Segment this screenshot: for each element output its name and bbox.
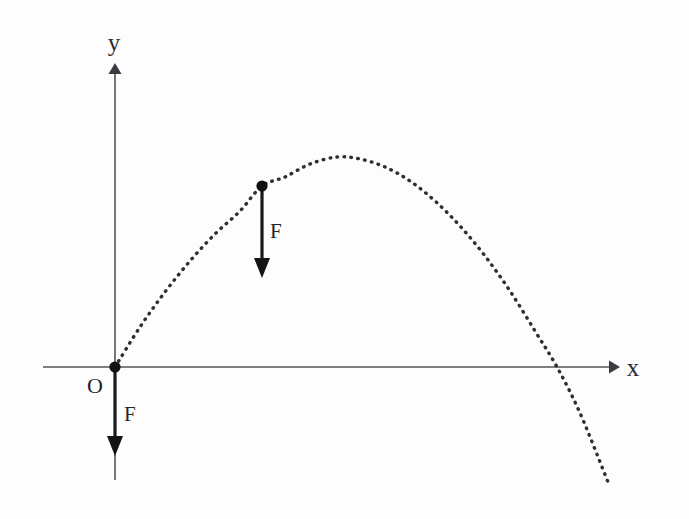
x-axis — [43, 361, 620, 374]
origin-label: O — [87, 373, 103, 398]
projectile-diagram: F F x y O — [0, 0, 689, 519]
trajectory-curve — [115, 157, 608, 482]
force-at-trajectory-point: F — [254, 190, 282, 278]
force-at-origin: F — [107, 371, 136, 456]
arrow-right-icon — [609, 361, 620, 374]
force-label-lower: F — [124, 402, 136, 426]
parabolic-trajectory — [115, 157, 608, 482]
arrow-down-icon — [254, 258, 270, 278]
launch-point-marker — [109, 361, 120, 372]
figure-canvas: F F x y O — [0, 0, 689, 519]
arrow-up-icon — [109, 63, 122, 74]
y-axis-label: y — [108, 29, 121, 56]
trajectory-point-marker — [256, 180, 267, 191]
arrow-down-icon — [107, 436, 123, 456]
x-axis-label: x — [627, 354, 640, 381]
force-label-upper: F — [270, 219, 282, 243]
